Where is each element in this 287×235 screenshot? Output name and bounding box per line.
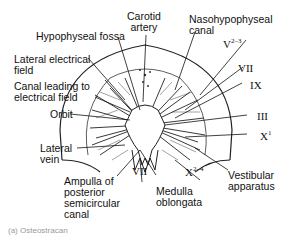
label-vestibular-apparatus: Vestibular apparatus xyxy=(228,170,275,192)
label-lateral-electrical-field: Lateral electrical field xyxy=(14,54,90,76)
label-canal-electrical-field: Canal leading to electrical field xyxy=(14,81,90,103)
brain-mass xyxy=(125,105,165,165)
nerve-v23: V2–3 xyxy=(223,37,241,50)
label-lateral-vein: Lateral vein xyxy=(40,143,72,165)
figure-caption: (a) Osteostracan xyxy=(8,226,68,235)
nerve-vii-bottom: VII xyxy=(132,165,147,177)
nerve-vii-right: VII xyxy=(238,62,253,74)
label-orbit: Orbit xyxy=(50,109,73,120)
label-hypophyseal-fossa: Hypophyseal fossa xyxy=(36,31,125,42)
nerve-x24: X2–4 xyxy=(185,165,203,178)
label-carotid-artery: Carotid artery xyxy=(127,11,161,33)
label-nasohypophyseal-canal: Nasohypophyseal canal xyxy=(189,14,272,36)
nerve-iii: III xyxy=(257,110,268,122)
nerve-ix: IX xyxy=(250,79,262,91)
nerve-x1: X1 xyxy=(260,129,271,142)
label-ampulla: Ampulla of posterior semicircular canal xyxy=(64,176,120,220)
label-medulla-oblongata: Medulla oblongata xyxy=(156,186,202,208)
